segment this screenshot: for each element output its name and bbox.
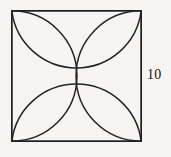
arc-left-side bbox=[12, 11, 77, 141]
arc-top-side bbox=[12, 11, 141, 68]
arc-bottom-side bbox=[12, 84, 141, 141]
arc-right-side bbox=[76, 11, 141, 141]
side-length-label: 10 bbox=[147, 68, 161, 82]
geometry-figure: 10 bbox=[0, 0, 171, 157]
figure-canvas bbox=[0, 0, 171, 157]
